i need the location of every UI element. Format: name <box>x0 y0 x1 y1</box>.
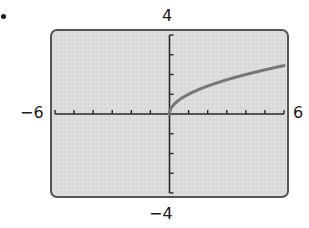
graphing-calculator-screen <box>0 0 309 228</box>
